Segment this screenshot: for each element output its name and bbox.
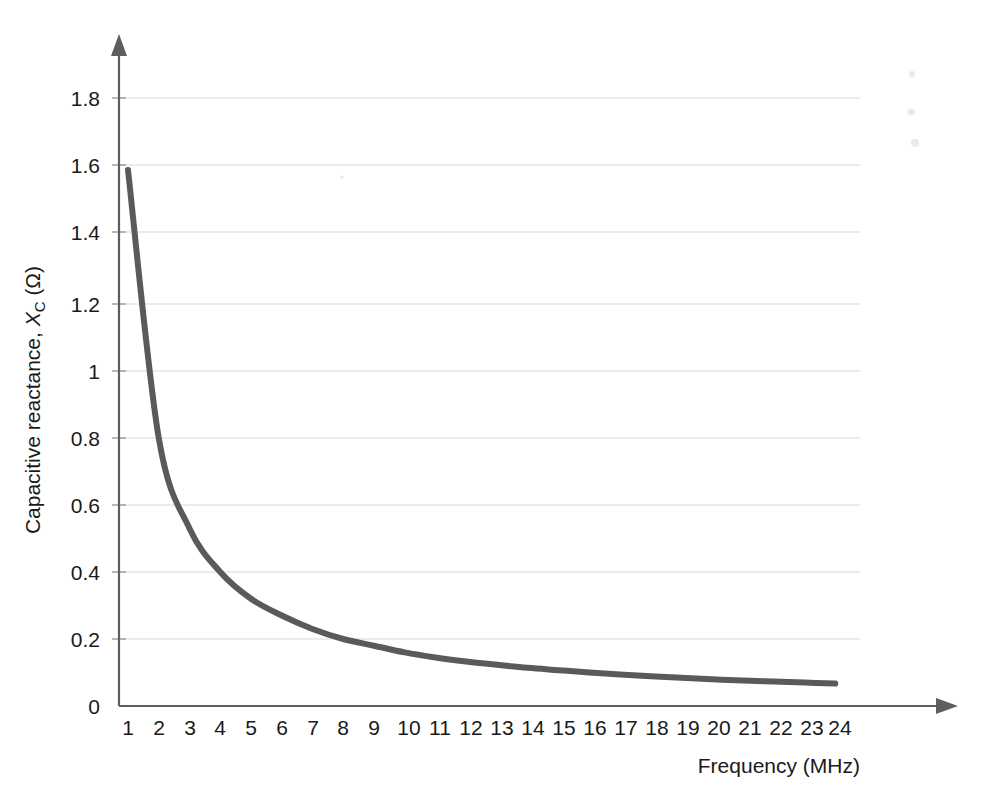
y-axis-title: Capacitive reactance, XC (Ω) bbox=[21, 266, 48, 534]
x-tick-label: 18 bbox=[645, 716, 668, 739]
y-tick-label: 1.2 bbox=[71, 293, 100, 316]
x-tick-label: 14 bbox=[521, 716, 545, 739]
y-tick-label: 0 bbox=[88, 695, 100, 718]
x-tick-label: 8 bbox=[337, 716, 349, 739]
x-axis bbox=[119, 698, 958, 714]
y-axis-title-symbol: X bbox=[21, 311, 44, 327]
y-tick-label: 0.2 bbox=[71, 628, 100, 651]
x-tick-label: 21 bbox=[738, 716, 761, 739]
capacitive-reactance-chart: 1.8 1.6 1.4 1.2 1 0.8 0.6 0.4 0.2 0 1 2 … bbox=[0, 0, 1007, 797]
x-tick-label: 11 bbox=[429, 716, 451, 739]
x-tick-label: 4 bbox=[214, 716, 226, 739]
y-tick-label: 0.6 bbox=[71, 494, 100, 517]
x-tick-label: 12 bbox=[459, 716, 482, 739]
y-tick-label: 0.8 bbox=[71, 427, 100, 450]
y-axis-title-lead: Capacitive reactance, bbox=[21, 326, 44, 534]
x-tick-label: 10 bbox=[397, 716, 420, 739]
y-axis-title-units: (Ω) bbox=[21, 266, 44, 302]
y-tick-label: 1.4 bbox=[71, 221, 101, 244]
x-tick-label: 7 bbox=[307, 716, 319, 739]
x-tick-label: 16 bbox=[583, 716, 606, 739]
x-tick-label: 3 bbox=[184, 716, 196, 739]
x-tick-label: 6 bbox=[276, 716, 288, 739]
y-axis-title-subscript: C bbox=[31, 301, 48, 312]
x-tick-label: 23 bbox=[800, 716, 823, 739]
y-axis-arrow-icon bbox=[111, 34, 127, 56]
y-tick-label: 0.4 bbox=[71, 561, 101, 584]
x-tick-label: 13 bbox=[490, 716, 513, 739]
x-tick-label: 15 bbox=[552, 716, 575, 739]
scan-speckles bbox=[340, 71, 919, 179]
y-tick-label: 1.8 bbox=[71, 87, 100, 110]
x-tick-label: 1 bbox=[122, 716, 134, 739]
x-tick-label: 17 bbox=[614, 716, 637, 739]
capacitive-reactance-curve bbox=[128, 170, 835, 684]
x-axis-arrow-icon bbox=[936, 698, 958, 714]
x-tick-label: 9 bbox=[368, 716, 380, 739]
x-tick-label: 19 bbox=[676, 716, 699, 739]
x-axis-title: Frequency (MHz) bbox=[698, 754, 860, 777]
y-tick-labels: 1.8 1.6 1.4 1.2 1 0.8 0.6 0.4 0.2 0 bbox=[71, 87, 101, 718]
x-tick-labels: 1 2 3 4 5 6 7 8 9 10 11 12 13 14 15 16 1… bbox=[122, 716, 852, 739]
y-tick-label: 1 bbox=[88, 360, 100, 383]
x-tick-label: 5 bbox=[245, 716, 257, 739]
x-tick-label: 20 bbox=[707, 716, 730, 739]
x-tick-label: 2 bbox=[153, 716, 165, 739]
x-tick-label: 24 bbox=[828, 716, 852, 739]
gridlines bbox=[119, 98, 860, 639]
y-tick-label: 1.6 bbox=[71, 154, 100, 177]
svg-text:Capacitive reactance, XC (Ω): Capacitive reactance, XC (Ω) bbox=[21, 266, 48, 534]
x-tick-label: 22 bbox=[769, 716, 792, 739]
chart-page: 1.8 1.6 1.4 1.2 1 0.8 0.6 0.4 0.2 0 1 2 … bbox=[0, 0, 1007, 797]
y-axis bbox=[111, 34, 127, 706]
